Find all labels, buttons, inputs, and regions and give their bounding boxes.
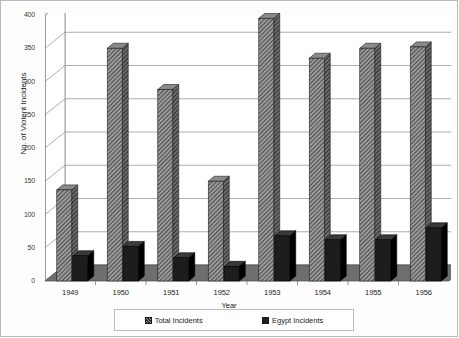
y-tick-100: 100: [24, 211, 35, 218]
x-tick-1950: 1950: [101, 288, 141, 297]
x-tick-1953: 1953: [252, 288, 292, 297]
chart-frame: No. of Violent Incidents 050100150200250…: [0, 0, 458, 337]
x-tick-1956: 1956: [404, 288, 444, 297]
x-tick-1952: 1952: [202, 288, 242, 297]
y-tick-400: 400: [24, 11, 35, 18]
legend-swatch-solid-icon: [262, 317, 269, 324]
legend-item-egypt: Egypt Incidents: [262, 316, 323, 325]
x-tick-1951: 1951: [151, 288, 191, 297]
y-tick-0: 0: [31, 277, 35, 284]
x-tick-1955: 1955: [353, 288, 393, 297]
x-tick-1949: 1949: [50, 288, 90, 297]
legend-swatch-hatched-icon: [145, 317, 152, 324]
y-axis-tick-labels: 050100150200250300350400: [1, 1, 41, 301]
y-tick-350: 350: [24, 44, 35, 51]
chart-legend: Total Incidents Egypt Incidents: [114, 309, 354, 331]
y-tick-250: 250: [24, 111, 35, 118]
plot-area: [45, 13, 451, 294]
legend-label-egypt: Egypt Incidents: [272, 316, 323, 325]
legend-item-total: Total Incidents: [145, 316, 203, 325]
y-tick-300: 300: [24, 78, 35, 85]
y-tick-200: 200: [24, 144, 35, 151]
bar-chart-svg: [45, 13, 451, 294]
y-tick-50: 50: [28, 244, 35, 251]
y-tick-150: 150: [24, 177, 35, 184]
legend-label-total: Total Incidents: [155, 316, 203, 325]
x-tick-1954: 1954: [303, 288, 343, 297]
